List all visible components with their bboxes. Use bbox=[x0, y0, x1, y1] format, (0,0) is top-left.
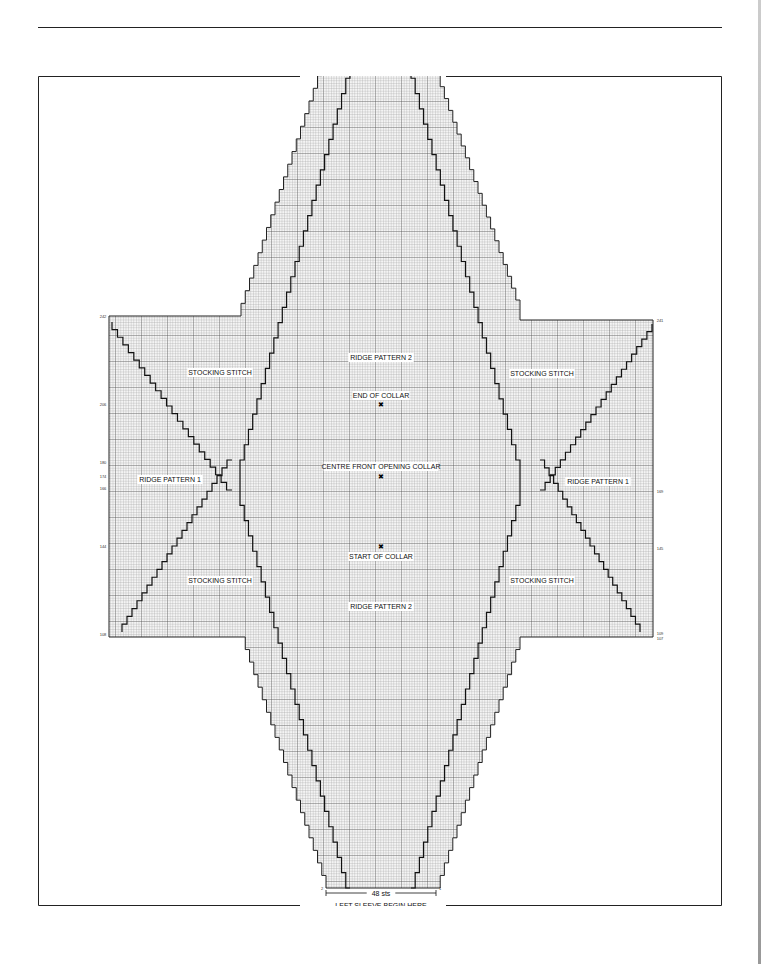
label-ridge-pattern-1-right: RIDGE PATTERN 1 bbox=[567, 478, 629, 485]
end-of-collar-marker-icon: ✖ bbox=[378, 401, 384, 409]
label-end-of-collar: END OF COLLAR bbox=[353, 392, 409, 399]
row-number-right: 145 bbox=[657, 546, 664, 551]
label-stocking-stitch-bl: STOCKING STITCH bbox=[188, 577, 252, 584]
chart-frame: RIDGE PATTERN 2STOCKING STITCHSTOCKING S… bbox=[38, 76, 722, 906]
label-centre-front-opening: CENTRE FRONT OPENING COLLAR bbox=[322, 463, 441, 470]
width-label: 48 sts bbox=[372, 890, 391, 897]
row-number-bottom-right: 1 bbox=[439, 886, 442, 891]
row-number-right: 107 bbox=[657, 636, 664, 641]
label-stocking-stitch-tl: STOCKING STITCH bbox=[188, 369, 252, 376]
row-number-left: 166 bbox=[100, 486, 107, 491]
label-ridge-pattern-2-top: RIDGE PATTERN 2 bbox=[350, 354, 412, 361]
row-number-left: 144 bbox=[100, 544, 107, 549]
knitting-chart: RIDGE PATTERN 2STOCKING STITCHSTOCKING S… bbox=[38, 76, 722, 906]
row-number-left: 242 bbox=[100, 314, 107, 319]
row-number-right: 241 bbox=[657, 318, 664, 323]
top-rule bbox=[38, 27, 722, 28]
row-number-right: 169 bbox=[657, 489, 664, 494]
label-stocking-stitch-tr: STOCKING STITCH bbox=[510, 370, 574, 377]
centre-front-marker-icon: ✖ bbox=[378, 473, 384, 481]
start-of-collar-marker-icon: ✖ bbox=[378, 543, 384, 551]
label-ridge-pattern-2-bottom: RIDGE PATTERN 2 bbox=[350, 603, 412, 610]
row-number-left: 174 bbox=[100, 474, 107, 479]
row-number-left: 180 bbox=[100, 460, 107, 465]
row-number-bottom-left: 2 bbox=[321, 886, 324, 891]
row-number-left: 206 bbox=[100, 402, 107, 407]
label-start-of-collar: START OF COLLAR bbox=[349, 553, 413, 560]
label-stocking-stitch-br: STOCKING STITCH bbox=[510, 577, 574, 584]
begin-here-label: LEFT SLEEVE BEGIN HERE bbox=[335, 902, 427, 906]
label-ridge-pattern-1-left: RIDGE PATTERN 1 bbox=[139, 476, 201, 483]
row-number-left: 108 bbox=[100, 632, 107, 637]
